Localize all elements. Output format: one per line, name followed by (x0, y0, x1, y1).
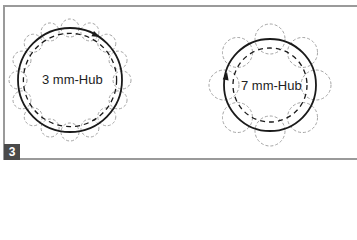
panel-7mm-label: 7 mm-Hub (241, 78, 302, 93)
panel-3mm-label: 3 mm-Hub (42, 72, 103, 87)
figure-number-badge: 3 (4, 144, 20, 160)
